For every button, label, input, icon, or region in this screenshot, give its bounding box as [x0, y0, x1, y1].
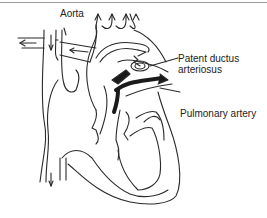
label-patent-ductus-line1: Patent ductus [178, 53, 239, 64]
heart-chambers [60, 86, 180, 204]
aorta [60, 25, 97, 92]
patent-ductus-arteriosus [118, 56, 178, 72]
arrow-right-icon [138, 50, 146, 56]
pulmonary-artery [112, 70, 180, 112]
label-patent-ductus-line2: arteriosus [178, 64, 222, 75]
vena-cava [18, 30, 58, 186]
label-aorta: Aorta [60, 8, 84, 19]
arrow-up-icon [133, 14, 139, 20]
label-pulmonary-artery: Pulmonary artery [180, 108, 256, 119]
